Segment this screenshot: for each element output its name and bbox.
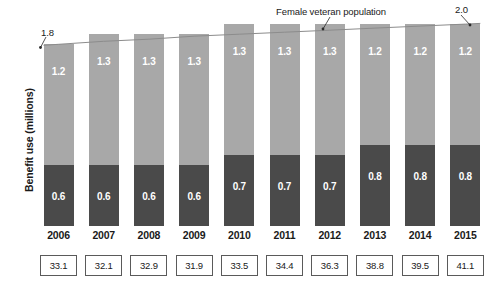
y-axis-title: Benefit use (millions) bbox=[23, 50, 35, 230]
bar-segment-upper-label: 1.2 bbox=[450, 46, 480, 57]
bar-segment-upper-label: 1.3 bbox=[224, 46, 254, 57]
bar-segment-lower-label: 0.6 bbox=[179, 191, 209, 202]
category-label-2006: 2006 bbox=[37, 229, 81, 241]
bar-segment-lower: 0.6 bbox=[44, 165, 74, 226]
bar-segment-upper: 1.3 bbox=[179, 34, 209, 165]
bar-segment-lower: 0.7 bbox=[270, 155, 300, 226]
category-axis: 2006200720082009201020112012201320142015 bbox=[36, 229, 488, 247]
footer-value-box: 33.1 bbox=[40, 255, 77, 276]
bar-segment-lower: 0.8 bbox=[450, 145, 480, 226]
footer-value-boxes: 33.132.132.931.933.534.436.338.839.541.1 bbox=[36, 255, 488, 279]
plot-area: 1.20.61.30.61.30.61.30.61.30.71.30.71.30… bbox=[36, 14, 488, 226]
bar-segment-lower-label: 0.7 bbox=[315, 181, 345, 192]
bar-segment-lower: 0.6 bbox=[89, 165, 119, 226]
bar-segment-lower-label: 0.6 bbox=[134, 191, 164, 202]
bar-column: 1.20.8 bbox=[450, 24, 480, 226]
bar-segment-lower-label: 0.8 bbox=[405, 171, 435, 182]
annotation-start-value: 1.8 bbox=[41, 27, 54, 38]
category-label-2009: 2009 bbox=[172, 229, 216, 241]
bar-segment-upper: 1.2 bbox=[360, 24, 390, 145]
category-label-2014: 2014 bbox=[398, 229, 442, 241]
bar-segment-lower: 0.8 bbox=[360, 145, 390, 226]
bar-segment-upper: 1.2 bbox=[44, 44, 74, 165]
bar-segment-upper-label: 1.2 bbox=[405, 46, 435, 57]
bar-segment-lower: 0.7 bbox=[315, 155, 345, 226]
bar-segment-upper: 1.3 bbox=[224, 24, 254, 155]
bar-segment-lower: 0.7 bbox=[224, 155, 254, 226]
bar-segment-upper-label: 1.2 bbox=[44, 66, 74, 77]
bar-segment-lower-label: 0.7 bbox=[270, 181, 300, 192]
footer-value-box: 38.8 bbox=[356, 255, 393, 276]
footer-value-box: 34.4 bbox=[266, 255, 303, 276]
bar-segment-lower: 0.6 bbox=[179, 165, 209, 226]
footer-value-box: 39.5 bbox=[402, 255, 439, 276]
footer-value-box: 32.9 bbox=[130, 255, 167, 276]
category-label-2011: 2011 bbox=[263, 229, 307, 241]
bar-column: 1.20.8 bbox=[405, 24, 435, 226]
bar-segment-lower-label: 0.7 bbox=[224, 181, 254, 192]
bar-column: 1.30.7 bbox=[315, 24, 345, 226]
bar-segment-lower: 0.8 bbox=[405, 145, 435, 226]
bar-segment-upper-label: 1.2 bbox=[360, 46, 390, 57]
bar-segment-upper: 1.3 bbox=[89, 34, 119, 165]
bar-segment-upper-label: 1.3 bbox=[89, 56, 119, 67]
footer-value-box: 32.1 bbox=[85, 255, 122, 276]
footer-value-box: 36.3 bbox=[311, 255, 348, 276]
annotation-series-label: Female veteran population bbox=[276, 6, 386, 17]
bar-segment-lower-label: 0.6 bbox=[44, 191, 74, 202]
bar-segment-lower-label: 0.8 bbox=[360, 171, 390, 182]
category-label-2012: 2012 bbox=[308, 229, 352, 241]
category-label-2010: 2010 bbox=[217, 229, 261, 241]
bar-segment-upper-label: 1.3 bbox=[315, 46, 345, 57]
bar-column: 1.30.6 bbox=[179, 34, 209, 226]
bar-segment-lower-label: 0.6 bbox=[89, 191, 119, 202]
bar-segment-upper-label: 1.3 bbox=[134, 56, 164, 67]
bars-layer: 1.20.61.30.61.30.61.30.61.30.71.30.71.30… bbox=[36, 14, 488, 226]
bar-segment-upper: 1.2 bbox=[405, 24, 435, 145]
bar-column: 1.30.6 bbox=[89, 34, 119, 226]
bar-segment-upper-label: 1.3 bbox=[270, 46, 300, 57]
bar-column: 1.30.7 bbox=[270, 24, 300, 226]
footer-value-box: 41.1 bbox=[447, 255, 484, 276]
annotation-end-value: 2.0 bbox=[455, 4, 468, 15]
bar-segment-upper: 1.3 bbox=[315, 24, 345, 155]
category-label-2013: 2013 bbox=[353, 229, 397, 241]
category-label-2015: 2015 bbox=[443, 229, 487, 241]
bar-segment-upper: 1.3 bbox=[270, 24, 300, 155]
category-label-2008: 2008 bbox=[127, 229, 171, 241]
stacked-bar-chart: Benefit use (millions) 1.20.61.30.61.30.… bbox=[0, 0, 491, 297]
bar-segment-lower-label: 0.8 bbox=[450, 171, 480, 182]
footer-value-box: 31.9 bbox=[176, 255, 213, 276]
bar-column: 1.20.8 bbox=[360, 24, 390, 226]
bar-column: 1.20.6 bbox=[44, 44, 74, 226]
category-label-2007: 2007 bbox=[82, 229, 126, 241]
bar-segment-lower: 0.6 bbox=[134, 165, 164, 226]
bar-segment-upper-label: 1.3 bbox=[179, 56, 209, 67]
footer-value-box: 33.5 bbox=[221, 255, 258, 276]
bar-segment-upper: 1.2 bbox=[450, 24, 480, 145]
bar-segment-upper: 1.3 bbox=[134, 34, 164, 165]
bar-column: 1.30.7 bbox=[224, 24, 254, 226]
bar-column: 1.30.6 bbox=[134, 34, 164, 226]
